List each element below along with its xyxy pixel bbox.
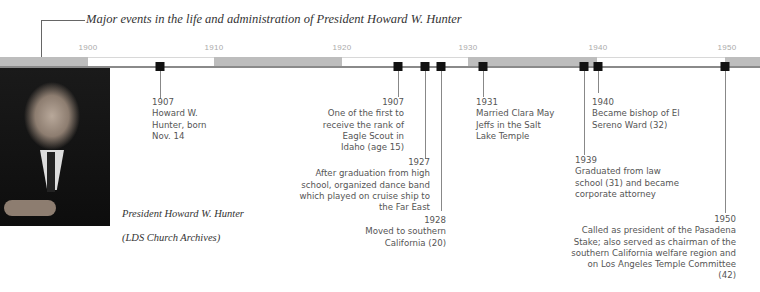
event-year: 1939: [575, 155, 687, 166]
decade-segment-1950s: [725, 57, 760, 66]
year-label-1940: 1940: [589, 43, 608, 52]
decade-segment-1890s: [0, 57, 88, 66]
event-marker-1950: [721, 62, 730, 71]
diagram-title: Major events in the life and administrat…: [86, 12, 462, 27]
event-marker-1907: [156, 62, 165, 71]
event-stem-1939: [584, 71, 585, 155]
event-stem-1928: [441, 71, 442, 211]
event-year: 1950: [568, 214, 736, 225]
photo-caption-name: President Howard W. Hunter: [122, 208, 244, 219]
year-label-1920: 1920: [333, 43, 352, 52]
event-year: 1928: [352, 215, 446, 226]
event-text: After graduation from high school, organ…: [299, 168, 430, 212]
timeline-bar: [0, 57, 760, 66]
event-year: 1907: [316, 97, 404, 108]
event-stem-1931: [483, 71, 484, 97]
event-stem-1940: [598, 71, 599, 93]
event-year: 1940: [592, 97, 682, 108]
event-text: Married Clara May Jeffs in the Salt Lake…: [476, 108, 554, 141]
event-stem-1950: [725, 71, 726, 213]
event-year: 1931: [476, 97, 560, 108]
year-label-1910: 1910: [205, 43, 224, 52]
decade-segment-1910s: [214, 57, 342, 66]
event-stem-1907: [160, 71, 161, 99]
event-marker-1928: [437, 62, 446, 71]
event-marker-1925: [394, 62, 403, 71]
event-text: Moved to southern California (20): [365, 226, 446, 247]
decade-segment-1940s: [597, 57, 725, 66]
event-1925: 1907 One of the first to receive the ran…: [316, 97, 404, 153]
event-text: Graduated from law school (31) and becam…: [575, 166, 679, 199]
event-stem-1925: [398, 71, 399, 97]
event-1950: 1950 Called as president of the Pasadena…: [568, 214, 736, 282]
event-1928: 1928 Moved to southern California (20): [352, 215, 446, 249]
event-marker-1927: [421, 62, 430, 71]
event-marker-1940: [594, 62, 603, 71]
event-marker-1931: [479, 62, 488, 71]
event-1931: 1931 Married Clara May Jeffs in the Salt…: [476, 97, 560, 142]
event-1927: 1927 After graduation from high school, …: [290, 157, 430, 213]
event-text: Howard W. Hunter, born Nov. 14: [152, 108, 207, 141]
event-text: Called as president of the Pasadena Stak…: [571, 225, 736, 280]
portrait-tie: [47, 152, 55, 192]
event-1939: 1939 Graduated from law school (31) and …: [575, 155, 687, 200]
event-stem-1927: [425, 71, 426, 159]
portrait-photo: [0, 68, 110, 226]
decade-segment-1900s: [88, 57, 214, 66]
event-text: One of the first to receive the rank of …: [323, 108, 404, 152]
decade-segment-1920s: [342, 57, 468, 66]
event-1907: 1907 Howard W. Hunter, born Nov. 14: [152, 97, 220, 142]
timeline-baseline: [0, 66, 760, 68]
portrait-hands: [4, 200, 56, 216]
year-label-1900: 1900: [79, 43, 98, 52]
event-marker-1939: [580, 62, 589, 71]
year-label-1950: 1950: [718, 43, 737, 52]
event-year: 1927: [290, 157, 430, 168]
event-1940: 1940 Became bishop of El Sereno Ward (32…: [592, 97, 682, 131]
photo-caption-credit: (LDS Church Archives): [122, 232, 220, 243]
event-text: Became bishop of El Sereno Ward (32): [592, 108, 680, 129]
event-year: 1907: [152, 97, 220, 108]
title-leader-line: [41, 20, 85, 21]
year-label-1930: 1930: [459, 43, 478, 52]
